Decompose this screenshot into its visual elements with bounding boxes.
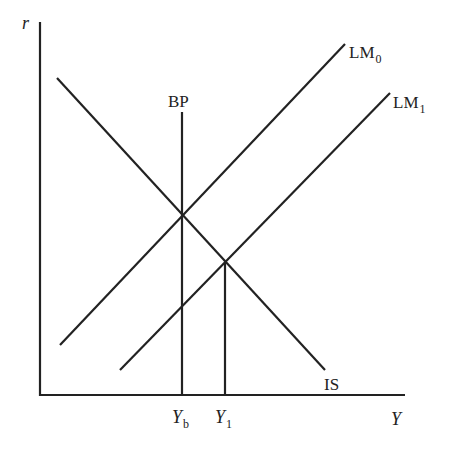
- yb-tick-label: Yb: [172, 408, 189, 426]
- yb-tick-main: Y: [172, 407, 182, 427]
- y1-tick-label: Y1: [215, 408, 232, 426]
- y1-tick-sub: 1: [226, 417, 232, 431]
- lm1-label-sub: 1: [420, 102, 426, 116]
- y-axis-label: r: [22, 14, 29, 32]
- lm0-label-sub: 0: [376, 52, 382, 66]
- is-curve: [57, 78, 325, 370]
- lm1-label: LM1: [393, 94, 426, 111]
- lm0-label: LM0: [349, 44, 382, 61]
- is-lm-bp-diagram: [0, 0, 453, 449]
- lm0-label-main: LM: [349, 43, 375, 62]
- lm1-label-main: LM: [393, 93, 419, 112]
- lm1-curve: [120, 93, 390, 370]
- yb-tick-sub: b: [183, 417, 189, 431]
- x-axis-label: Y: [391, 410, 401, 428]
- is-label: IS: [324, 376, 339, 393]
- y1-tick-main: Y: [215, 407, 225, 427]
- lm0-curve: [60, 44, 345, 345]
- bp-label: BP: [168, 93, 189, 110]
